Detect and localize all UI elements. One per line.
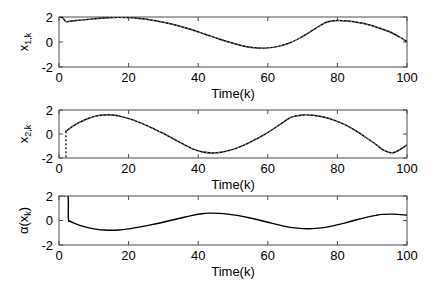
y-tick-label: 2 (46, 189, 53, 204)
data-curve (64, 194, 407, 230)
x-tick-label: 0 (55, 248, 62, 263)
x-axis-title: Time(k) (211, 177, 255, 192)
x-tick-label: 80 (330, 70, 344, 85)
subplot-1: 020406080100-202Time(k)x1,k (16, 10, 418, 102)
subplot-2: 020406080100-202Time(k)x2,k (16, 103, 418, 193)
y-axis-title: α(xk) (16, 207, 33, 234)
x-tick-label: 100 (396, 248, 418, 263)
y-tick-label: 0 (46, 213, 53, 228)
data-curve (66, 115, 407, 153)
y-tick-label: 2 (46, 103, 53, 118)
x-tick-label: 0 (55, 70, 62, 85)
curves-group (59, 17, 407, 48)
x-tick-label: 60 (261, 161, 275, 176)
x-tick-label: 60 (261, 248, 275, 263)
curves-group (66, 115, 407, 158)
x-tick-label: 40 (191, 70, 205, 85)
x-tick-label: 20 (121, 161, 135, 176)
x-tick-label: 60 (261, 70, 275, 85)
y-axis-title-base: α(x (16, 215, 31, 234)
y-axis-title-subscript: 2,k (23, 124, 33, 137)
figure-container: 020406080100-202Time(k)x1,k020406080100-… (0, 0, 440, 286)
x-tick-label: 100 (396, 70, 418, 85)
subplot-3: 020406080100-202Time(k)α(xk) (16, 189, 418, 280)
x-tick-label: 40 (191, 161, 205, 176)
x-axis-title: Time(k) (211, 264, 255, 279)
x-tick-label: 0 (55, 161, 62, 176)
y-tick-label: -2 (41, 151, 53, 166)
x-tick-label: 80 (330, 248, 344, 263)
curves-group (64, 194, 407, 230)
x-axis-title: Time(k) (211, 86, 255, 101)
plot-frame (59, 17, 407, 67)
x-tick-label: 20 (121, 248, 135, 263)
y-tick-label: -2 (41, 60, 53, 75)
y-axis-title-subscript: 1,k (23, 32, 33, 45)
x-tick-label: 40 (191, 248, 205, 263)
y-axis-title: x1,k (16, 32, 33, 51)
y-tick-label: 0 (46, 127, 53, 142)
y-axis-title: x2,k (16, 124, 33, 143)
y-tick-label: 2 (46, 10, 53, 25)
x-tick-label: 20 (121, 70, 135, 85)
y-tick-label: 0 (46, 35, 53, 50)
three-panel-time-series-figure: 020406080100-202Time(k)x1,k020406080100-… (0, 0, 440, 286)
y-axis-title-tail: ) (16, 207, 31, 211)
y-tick-label: -2 (41, 238, 53, 253)
plot-frame (59, 110, 407, 158)
x-tick-label: 100 (396, 161, 418, 176)
data-curve-overlay (66, 115, 407, 153)
x-tick-label: 80 (330, 161, 344, 176)
